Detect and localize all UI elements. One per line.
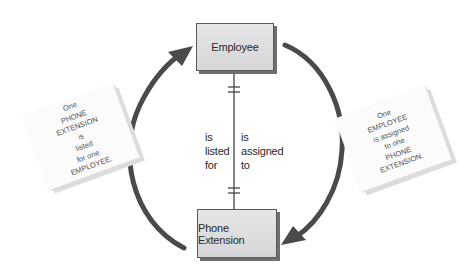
entity-employee: Employee — [196, 23, 274, 71]
relationship-label-left: is listed for — [205, 130, 229, 172]
left-curved-arrow-icon — [130, 46, 193, 248]
entity-employee-label: Employee — [211, 41, 258, 53]
entity-phone-extension: Phone Extension — [197, 209, 277, 258]
note-right-text: One EMPLOYEE is assigned to one PHONE EX… — [361, 102, 425, 177]
entity-phone-extension-label: Phone Extension — [198, 222, 276, 246]
note-left-text: One PHONE EXTENSION is listed for one EM… — [48, 95, 114, 179]
right-curved-arrow-icon — [281, 45, 342, 245]
relationship-label-right: is assigned to — [241, 130, 283, 172]
